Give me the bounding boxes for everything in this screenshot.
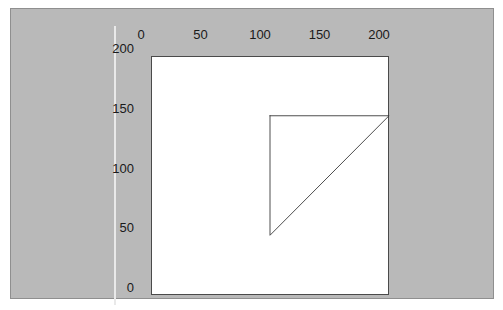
x-tick-label: 50 bbox=[193, 28, 207, 41]
y-tick-label: 200 bbox=[112, 42, 134, 55]
figure-canvas: 050100150200 050100150200 bbox=[0, 0, 503, 310]
x-tick-label: 0 bbox=[137, 28, 144, 41]
y-tick-label: 100 bbox=[112, 161, 134, 174]
x-tick-label: 200 bbox=[368, 28, 390, 41]
y-tick-label: 50 bbox=[120, 221, 134, 234]
x-tick-label: 150 bbox=[309, 28, 331, 41]
x-tick-label: 100 bbox=[249, 28, 271, 41]
figure-panel: 050100150200 050100150200 bbox=[10, 8, 494, 299]
y-tick-label: 150 bbox=[112, 101, 134, 114]
plot-graphics bbox=[151, 56, 389, 295]
y-tick-label: 0 bbox=[127, 281, 134, 294]
triangle-shape bbox=[270, 116, 389, 236]
